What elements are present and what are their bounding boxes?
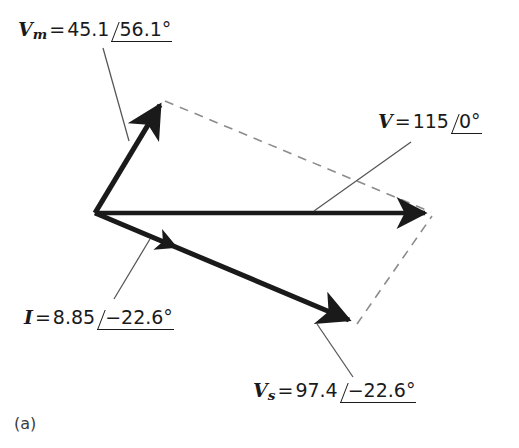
- label-vm-angle: 56.1°: [116, 20, 171, 39]
- label-i-angle: −22.6°: [102, 308, 173, 327]
- label-v-symbol: V: [378, 110, 393, 132]
- label-vs: Vs=97.4−22.6°: [253, 381, 415, 403]
- label-i-equals: =: [33, 306, 53, 328]
- figure-caption: (a): [14, 414, 36, 433]
- label-vm-magnitude: 45.1: [67, 18, 109, 40]
- label-v-equals: =: [393, 110, 413, 132]
- label-vm: Vm=45.156.1°: [18, 20, 171, 42]
- phasor-vectors: [95, 105, 425, 320]
- leader-line-vs: [317, 324, 353, 377]
- label-i: I=8.85−22.6°: [24, 308, 173, 327]
- label-vs-symbol: V: [253, 379, 268, 401]
- label-v-angle: 0°: [456, 112, 481, 131]
- label-vm-symbol: V: [18, 18, 33, 40]
- label-vs-equals: =: [275, 379, 295, 401]
- phasor-diagram-figure: Vm=45.156.1° V=1150° I=8.85−22.6° Vs=97.…: [0, 0, 519, 448]
- label-vm-subscript: m: [33, 26, 47, 42]
- leader-line-vm: [103, 48, 129, 141]
- label-vs-magnitude: 97.4: [295, 379, 337, 401]
- label-vs-angle: −22.6°: [345, 381, 416, 400]
- leader-line-v: [314, 142, 411, 211]
- dashed-line-vs-to-v: [357, 216, 432, 324]
- label-i-symbol: I: [24, 306, 33, 328]
- label-v-magnitude: 115: [413, 110, 449, 132]
- label-v: V=1150°: [378, 112, 481, 131]
- phasor-vm: [95, 105, 160, 213]
- label-i-magnitude: 8.85: [53, 306, 95, 328]
- leader-line-i: [114, 239, 150, 299]
- label-vm-equals: =: [47, 18, 67, 40]
- phasor-i: [95, 213, 176, 247]
